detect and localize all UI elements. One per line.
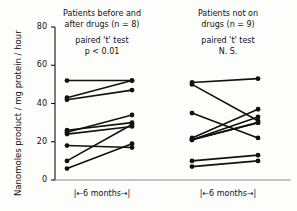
data-point-after <box>256 114 261 119</box>
pair-connector <box>192 117 258 140</box>
data-point-before <box>65 78 70 83</box>
data-point-before <box>190 158 195 163</box>
data-point-after <box>256 76 261 81</box>
data-point-before <box>190 164 195 169</box>
pair-connector <box>192 161 258 167</box>
y-tick-label: 80 <box>25 22 47 31</box>
y-tick-label: 40 <box>25 99 47 108</box>
y-tick-label: 0 <box>25 175 47 184</box>
right-group-test-label: paired 't' test <box>178 36 278 47</box>
left-group-pvalue: p < 0.01 <box>52 47 152 58</box>
data-point-before <box>190 137 195 142</box>
y-tick-label: 20 <box>25 137 47 146</box>
data-point-after <box>256 136 261 141</box>
left-group-duration-label: |←6 months→| <box>52 189 152 198</box>
pair-series <box>190 76 261 85</box>
series-layer <box>65 76 261 171</box>
data-point-before <box>65 143 70 148</box>
data-point-after <box>130 122 135 127</box>
data-point-before <box>190 82 195 87</box>
pair-series <box>65 78 135 100</box>
right-group-duration-label: |←6 months→| <box>178 189 278 198</box>
left-group-heading: Patients before and after drugs (n = 8) <box>52 9 152 30</box>
pair-connector <box>192 84 258 120</box>
pair-series <box>65 122 135 163</box>
figure-panel: Nanomoles product / mg protein / hour 02… <box>0 0 297 211</box>
data-point-after <box>130 88 135 93</box>
data-point-after <box>256 153 261 158</box>
right-group-heading: Patients not on drugs (n = 9) <box>178 9 278 30</box>
right-group-significance: N. S. <box>178 47 278 58</box>
data-point-after <box>256 107 261 112</box>
data-point-after <box>130 113 135 118</box>
data-point-after <box>256 120 261 125</box>
data-point-after <box>130 141 135 146</box>
data-point-before <box>65 166 70 171</box>
y-axis-title: Nanomoles product / mg protein / hour <box>13 30 23 196</box>
left-group-test-label: paired 't' test <box>52 36 152 47</box>
pair-connector <box>192 155 258 161</box>
data-point-before <box>65 132 70 137</box>
data-point-before <box>65 158 70 163</box>
data-point-after <box>256 158 261 163</box>
data-point-before <box>65 97 70 102</box>
y-tick-label: 60 <box>25 60 47 69</box>
data-point-before <box>190 111 195 116</box>
pair-connector <box>192 79 258 83</box>
data-point-after <box>130 78 135 83</box>
